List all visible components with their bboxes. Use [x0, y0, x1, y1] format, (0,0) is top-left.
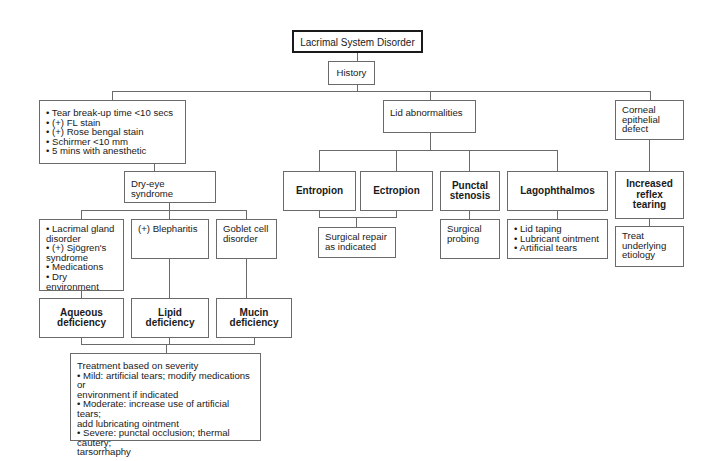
- lipid-deficiency-node: Lipid deficiency: [131, 298, 209, 338]
- aqueous-cause-node: • Lacrimal gland disorder • (+) Sjögren'…: [39, 219, 124, 291]
- connector: [649, 139, 650, 171]
- connector: [319, 150, 558, 151]
- connector: [557, 210, 558, 219]
- connector: [254, 337, 255, 344]
- corneal-defect-node: Corneal epithelial defect: [615, 100, 684, 140]
- connector: [357, 52, 358, 61]
- surgical-probing-node: Surgical probing: [440, 219, 500, 259]
- connector: [154, 163, 155, 171]
- connector: [246, 258, 247, 298]
- connector: [246, 210, 247, 219]
- entropion-node: Entropion: [283, 171, 356, 211]
- connector: [81, 210, 247, 211]
- surgical-repair-node: Surgical repair as indicated: [318, 227, 396, 258]
- root-label: Lacrimal System Disorder: [300, 37, 414, 48]
- lagophthalmos-node: Lagophthalmos: [507, 171, 608, 211]
- root-node: Lacrimal System Disorder: [292, 30, 423, 53]
- connector: [469, 150, 470, 171]
- connector: [319, 210, 320, 217]
- connector: [469, 210, 470, 219]
- connector: [357, 84, 358, 91]
- punctal-stenosis-node: Punctal stenosis: [440, 171, 500, 211]
- lagophthalmos-treatment-node: • Lid taping • Lubricant ointment • Arti…: [507, 219, 608, 259]
- connector: [319, 150, 320, 171]
- mucin-cause-node: Goblet cell disorder: [216, 219, 277, 259]
- mucin-deficiency-node: Mucin deficiency: [216, 298, 292, 338]
- connector: [166, 344, 167, 353]
- connector: [169, 337, 170, 344]
- lid-abnormalities-label: Lid abnormalities: [390, 107, 463, 118]
- lid-abnormalities-node: Lid abnormalities: [383, 100, 476, 133]
- dry-eye-syndrome-label: Dry-eye syndrome: [131, 178, 173, 199]
- lipid-cause-node: (+) Blepharitis: [131, 219, 209, 259]
- connector: [81, 210, 82, 219]
- increased-reflex-tearing-node: Increased reflex tearing: [615, 171, 684, 219]
- connector: [319, 217, 397, 218]
- ectropion-node: Ectropion: [360, 171, 433, 211]
- connector: [169, 210, 170, 219]
- connector: [396, 210, 397, 217]
- dry-eye-findings-node: • Tear break-up time <10 secs • (+) FL s…: [39, 100, 186, 164]
- connector: [169, 258, 170, 298]
- connector: [430, 132, 431, 150]
- history-label: History: [337, 67, 367, 78]
- dry-eye-syndrome-node: Dry-eye syndrome: [124, 171, 216, 203]
- connector: [112, 91, 113, 100]
- connector: [396, 150, 397, 171]
- connector: [81, 337, 82, 344]
- connector: [649, 218, 650, 226]
- connector: [650, 91, 651, 100]
- connector: [81, 344, 255, 345]
- connector: [557, 150, 558, 171]
- connector: [169, 202, 170, 210]
- aqueous-deficiency-node: Aqueous deficiency: [39, 298, 124, 338]
- connector: [356, 217, 357, 227]
- connector: [430, 91, 431, 100]
- dry-eye-treatment-node: Treatment based on severity • Mild: arti…: [70, 353, 261, 441]
- history-node: History: [328, 61, 375, 85]
- treat-underlying-etiology-node: Treat underlying etiology: [615, 226, 684, 267]
- connector: [112, 91, 651, 92]
